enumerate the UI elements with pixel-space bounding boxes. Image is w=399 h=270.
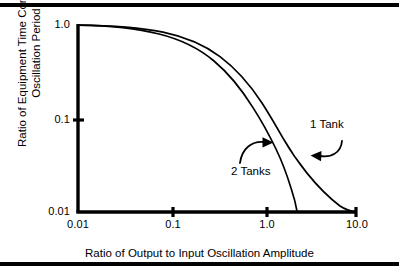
leader-arrow-two-tanks: [240, 137, 274, 163]
y-axis-title: Ratio of Equipment Time Constant to Osci…: [15, 0, 43, 148]
chart-page: 0.01 0.1 1.0 10.0 1.0 0.1 0.01 1 Tank 2 …: [0, 0, 399, 270]
leader-arrow-one-tank: [311, 141, 343, 161]
y-tick-label-2: 0.01: [26, 205, 70, 217]
bottom-divider-rule: [0, 262, 399, 266]
series-annotation-1-tank: 1 Tank: [310, 118, 344, 130]
series-annotation-2-tanks: 2 Tanks: [231, 165, 270, 177]
arrowhead-one-tank: [311, 151, 322, 161]
x-tick-label-3: 10.0: [336, 218, 378, 230]
x-tick-label-0: 0.01: [58, 218, 98, 230]
chart-figure: 0.01 0.1 1.0 10.0 1.0 0.1 0.01 1 Tank 2 …: [0, 8, 399, 260]
x-tick-label-1: 0.1: [155, 218, 191, 230]
x-axis-title: Ratio of Output to Input Oscillation Amp…: [0, 247, 399, 259]
y-axis-title-container: Ratio of Equipment Time Constant to Osci…: [15, 0, 49, 148]
top-divider-rule: [0, 3, 399, 7]
arrowhead-two-tanks: [263, 137, 274, 147]
curve-2-tanks: [79, 25, 298, 212]
x-tick-label-2: 1.0: [249, 218, 285, 230]
